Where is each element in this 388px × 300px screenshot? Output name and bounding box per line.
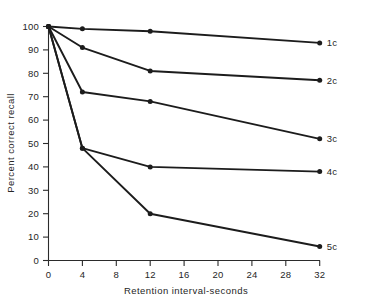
y-tick-label-80: 80 — [28, 68, 39, 79]
y-tick-label-50: 50 — [28, 138, 39, 149]
y-tick-label-10: 10 — [28, 231, 39, 242]
data-point-1c-x4 — [80, 26, 85, 31]
series-line-3c — [49, 27, 320, 139]
data-point-3c-x12 — [148, 99, 153, 104]
x-axis-ticks — [49, 261, 320, 267]
retention-recall-chart: 0 10 20 30 40 50 60 70 80 90 100 0 4 8 1… — [0, 0, 388, 300]
y-axis-title: Percent correct recall — [5, 93, 16, 193]
data-point-2c-x4 — [80, 45, 85, 50]
data-point-5c-x32 — [317, 244, 322, 249]
y-axis-ticks — [43, 27, 49, 261]
data-point-3c-x4 — [80, 90, 85, 95]
x-tick-label-4: 4 — [80, 269, 85, 280]
data-point-1c-x32 — [317, 40, 322, 45]
x-tick-label-0: 0 — [46, 269, 51, 280]
series-label-2c: 2c — [327, 75, 337, 86]
data-point-3c-x32 — [317, 136, 322, 141]
x-tick-label-16: 16 — [179, 269, 190, 280]
data-point-5c-x12 — [148, 211, 153, 216]
x-axis-title: Retention interval-seconds — [124, 285, 248, 296]
series-layer — [46, 24, 322, 249]
data-point-5c-x0 — [46, 24, 51, 29]
data-point-5c-x4 — [80, 146, 85, 151]
series-end-labels: 1c2c3c4c5c — [327, 37, 337, 252]
y-tick-label-70: 70 — [28, 91, 39, 102]
series-5c — [46, 24, 322, 249]
x-tick-label-28: 28 — [280, 269, 291, 280]
series-line-4c — [49, 27, 320, 172]
series-line-1c — [49, 27, 320, 43]
x-tick-label-32: 32 — [314, 269, 325, 280]
y-tick-label-40: 40 — [28, 161, 39, 172]
data-point-1c-x12 — [148, 29, 153, 34]
y-tick-label-20: 20 — [28, 208, 39, 219]
series-line-2c — [49, 27, 320, 81]
y-tick-label-60: 60 — [28, 114, 39, 125]
series-label-3c: 3c — [327, 133, 337, 144]
series-3c — [46, 24, 322, 141]
series-1c — [46, 24, 322, 45]
y-tick-label-100: 100 — [23, 21, 39, 32]
data-point-2c-x32 — [317, 78, 322, 83]
series-label-5c: 5c — [327, 241, 337, 252]
data-point-4c-x12 — [148, 164, 153, 169]
y-tick-label-0: 0 — [34, 255, 39, 266]
data-point-4c-x32 — [317, 169, 322, 174]
series-label-4c: 4c — [327, 166, 337, 177]
data-point-2c-x12 — [148, 68, 153, 73]
series-label-1c: 1c — [327, 37, 337, 48]
x-tick-label-12: 12 — [145, 269, 156, 280]
chart-canvas: 0 10 20 30 40 50 60 70 80 90 100 0 4 8 1… — [0, 0, 388, 300]
series-4c — [46, 24, 322, 174]
x-tick-label-20: 20 — [213, 269, 224, 280]
y-tick-label-30: 30 — [28, 185, 39, 196]
x-tick-label-8: 8 — [114, 269, 119, 280]
x-tick-label-24: 24 — [246, 269, 257, 280]
series-line-5c — [49, 27, 320, 247]
y-tick-label-90: 90 — [28, 44, 39, 55]
